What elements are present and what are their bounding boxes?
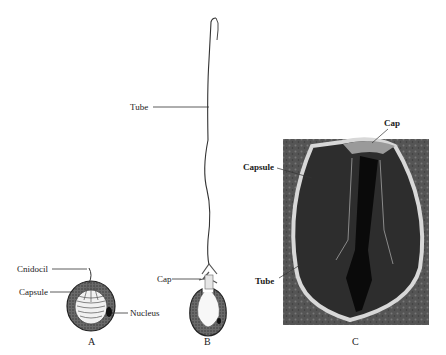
nucleus-label: Nucleus [130,308,160,318]
cap-label-c: Cap [384,118,400,128]
cap-label-b: Cap [157,274,172,284]
tube-label-c: Tube [255,276,274,286]
panel-c-micrograph [277,129,429,325]
panel-letter-b: B [204,336,211,347]
cnidocil-label: Cnidocil [17,264,48,274]
capsule-label-c: Capsule [243,162,274,172]
tube-label-b: Tube [130,102,148,112]
panel-a-illustration [50,268,128,331]
panel-letter-c: C [352,336,359,347]
panel-b-illustration [153,18,226,336]
panel-letter-a: A [88,336,95,347]
capsule-label-a: Capsule [19,287,48,297]
diagram-canvas [0,0,446,355]
